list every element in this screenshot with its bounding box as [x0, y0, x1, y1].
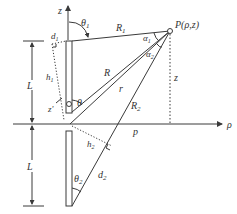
p-label: p [132, 126, 138, 137]
d1-label: d1 [51, 31, 59, 42]
d2-label: d2 [98, 169, 107, 182]
dipole-geometry-diagram: z ρ θ1 R1 P(ρ,z) α1 α2 d1 h1 L L R r z' … [0, 0, 237, 214]
observation-point-P [168, 29, 173, 34]
zprime-label: z' [47, 104, 55, 114]
d1-dotted [52, 41, 66, 44]
point-P-label: P(ρ,z) [174, 19, 200, 31]
R2-label: R2 [130, 100, 141, 113]
rho-axis-label: ρ [226, 119, 232, 130]
r-line [70, 31, 170, 124]
source-point-marker [67, 102, 72, 107]
d1-right-angle [53, 44, 56, 47]
theta1-label: θ1 [81, 17, 89, 30]
r-label: r [119, 83, 123, 94]
alpha2-label: α2 [146, 49, 154, 60]
lower-antenna-arm [66, 131, 72, 206]
theta2-arc [72, 188, 81, 192]
h1-dotted [52, 44, 64, 120]
z-height-label: z [173, 72, 178, 83]
theta2-label: θ2 [74, 173, 83, 186]
z-axis-label: z [57, 5, 62, 16]
R2-line [72, 31, 170, 206]
R-line [72, 31, 170, 112]
R1-label: R1 [115, 22, 126, 35]
theta-label: θ [77, 97, 82, 108]
L-lower-label: L [26, 161, 33, 172]
h2-label: h2 [87, 139, 95, 150]
L-upper-label: L [26, 80, 33, 91]
h1-label: h1 [46, 72, 54, 83]
alpha2-arc [157, 44, 162, 47]
alpha1-arc [154, 33, 158, 40]
h2-dotted [72, 126, 112, 146]
diagram-canvas: z ρ θ1 R1 P(ρ,z) α1 α2 d1 h1 L L R r z' … [0, 0, 237, 214]
alpha1-label: α1 [143, 33, 151, 44]
R-label: R [103, 67, 110, 78]
